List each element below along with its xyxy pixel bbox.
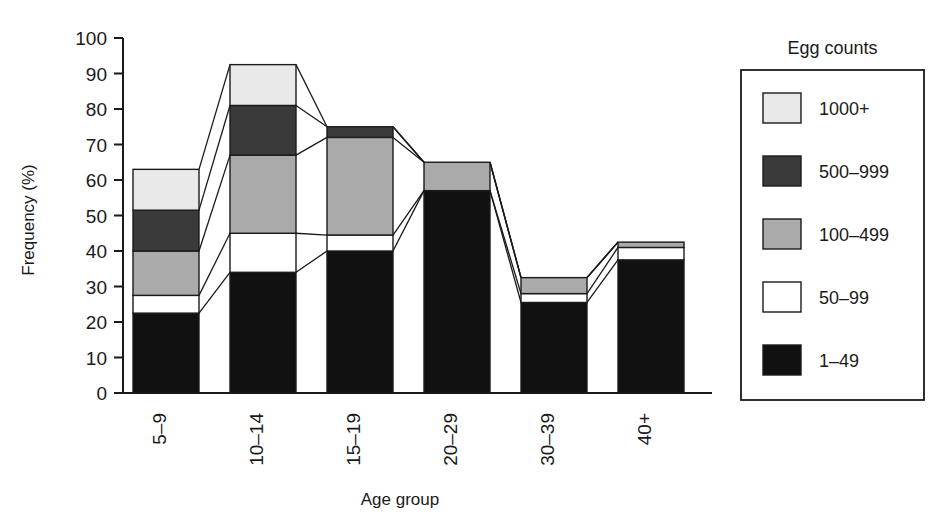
x-axis-tick-label: 40+ [634, 413, 655, 445]
x-axis-tick-label: 30–39 [537, 413, 558, 466]
bar-segment [424, 191, 490, 393]
x-axis-tick-label: 15–19 [343, 413, 364, 466]
legend-swatch [763, 345, 801, 375]
legend-item-label: 100–499 [819, 225, 889, 245]
bar-segment [230, 233, 296, 272]
segment-connector [587, 247, 618, 293]
x-axis-tick-label: 10–14 [246, 413, 267, 466]
y-axis-tick-label: 60 [86, 170, 107, 191]
legend-swatch [763, 156, 801, 186]
bar-segment [327, 137, 393, 235]
legend-title: Egg counts [787, 38, 877, 58]
segment-connector [199, 105, 230, 210]
y-axis-tick-label: 80 [86, 99, 107, 120]
chart-canvas: Frequency (%) Age group 0102030405060708… [0, 0, 946, 519]
legend-item-label: 50–99 [819, 288, 869, 308]
y-axis-tick-label: 30 [86, 277, 107, 298]
segment-connector [296, 65, 327, 127]
y-axis-tick-label: 50 [86, 206, 107, 227]
bar-segment [618, 242, 684, 247]
y-axis-tick-label: 100 [75, 28, 107, 49]
y-axis-tick-label: 70 [86, 135, 107, 156]
y-axis-tick-label: 0 [96, 383, 107, 404]
segment-connector [587, 242, 618, 278]
segment-connector [393, 137, 424, 162]
segment-connector [393, 127, 424, 163]
segment-connector [199, 272, 230, 313]
bar-segment [230, 272, 296, 393]
x-axis-tick-label: 5–9 [149, 413, 170, 445]
x-axis-tick-label: 20–29 [440, 413, 461, 466]
segment-connector [296, 251, 327, 272]
segment-connector [490, 162, 521, 277]
x-axis: 5–910–1415–1920–2930–3940+ [123, 393, 712, 466]
x-axis-title: Age group [361, 490, 439, 509]
bar-segment [327, 251, 393, 393]
segment-connector [587, 260, 618, 303]
bar-segment [327, 235, 393, 251]
legend-swatch [763, 219, 801, 249]
segment-connector [199, 155, 230, 251]
bar-segment [230, 65, 296, 106]
bar-segment [230, 105, 296, 155]
segment-connector [296, 137, 327, 155]
bar-segment [327, 127, 393, 138]
segment-connector [296, 233, 327, 235]
bar-segment [133, 210, 199, 251]
y-axis-title: Frequency (%) [19, 164, 38, 275]
bar-segment [424, 162, 490, 190]
bar-segment [521, 302, 587, 393]
bar-segment [133, 251, 199, 295]
y-axis-tick-label: 90 [86, 64, 107, 85]
bar-segment [133, 169, 199, 210]
segment-connector [393, 191, 424, 235]
bar-segment [230, 155, 296, 233]
y-axis-tick-label: 10 [86, 348, 107, 369]
bar-segment [133, 313, 199, 393]
legend-swatch [763, 93, 801, 123]
y-axis: 0102030405060708090100 [75, 28, 123, 404]
segment-connector [199, 233, 230, 295]
segment-connector [393, 191, 424, 251]
chart-legend: Egg counts1000+500–999100–49950–991–49 [741, 38, 924, 400]
legend-item-label: 1000+ [819, 99, 870, 119]
segment-connector [490, 191, 521, 294]
bar-segment [521, 294, 587, 303]
y-axis-tick-label: 40 [86, 241, 107, 262]
stacked-bar-chart: Frequency (%) Age group 0102030405060708… [0, 0, 946, 519]
y-axis-tick-label: 20 [86, 312, 107, 333]
legend-item-label: 500–999 [819, 162, 889, 182]
bar-segment [521, 278, 587, 294]
bar-segment [133, 295, 199, 313]
bar-segment [618, 247, 684, 259]
segment-connector [199, 65, 230, 170]
bar-segment [618, 260, 684, 393]
legend-item-label: 1–49 [819, 351, 859, 371]
legend-swatch [763, 282, 801, 312]
